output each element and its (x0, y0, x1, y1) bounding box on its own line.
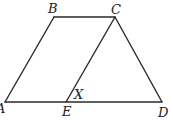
label-point-b: B (47, 1, 58, 16)
label-point-d: D (157, 105, 169, 120)
segment-cd (115, 17, 162, 102)
label-point-e: E (61, 104, 72, 119)
label-point-a: A (0, 101, 5, 116)
segment-ab (5, 17, 54, 102)
label-point-c: C (111, 2, 121, 17)
geometry-diagram: A B C D E X (0, 0, 173, 120)
label-angle-x: X (73, 87, 84, 102)
